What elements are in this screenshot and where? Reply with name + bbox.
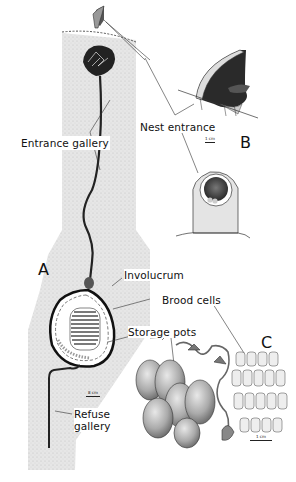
panel-label-c: C — [261, 335, 272, 351]
scale-bar-b: 1 cm — [205, 137, 215, 143]
scale-bar-a: 8 cm — [86, 391, 100, 397]
soil-column — [28, 31, 150, 470]
panel-b-entrance-front — [176, 172, 250, 238]
scale-bar-c-label: 1 cm — [256, 434, 266, 439]
label-storage-pots: Storage pots — [128, 326, 196, 338]
panel-c-storage-pots — [136, 342, 234, 448]
label-nest-entrance: Nest entrance — [140, 121, 215, 133]
label-brood-cells: Brood cells — [162, 294, 221, 306]
scale-bar-b-label: 1 cm — [205, 136, 215, 141]
panel-c-brood-cells — [232, 352, 287, 432]
nest-illustration — [0, 0, 296, 482]
label-refuse-gallery-1: Refuse — [74, 408, 110, 420]
scale-bar-c: 1 cm — [250, 435, 272, 441]
label-involucrum: Involucrum — [124, 269, 184, 281]
panel-b-entrance-side — [178, 50, 258, 118]
label-refuse-gallery-2: gallery — [74, 420, 111, 432]
panel-label-a: A — [38, 262, 49, 278]
scale-bar-a-label: 8 cm — [88, 390, 98, 395]
label-entrance-gallery: Entrance gallery — [20, 136, 110, 150]
nest-entrance-tube — [93, 6, 104, 28]
panel-label-b: B — [240, 135, 251, 151]
